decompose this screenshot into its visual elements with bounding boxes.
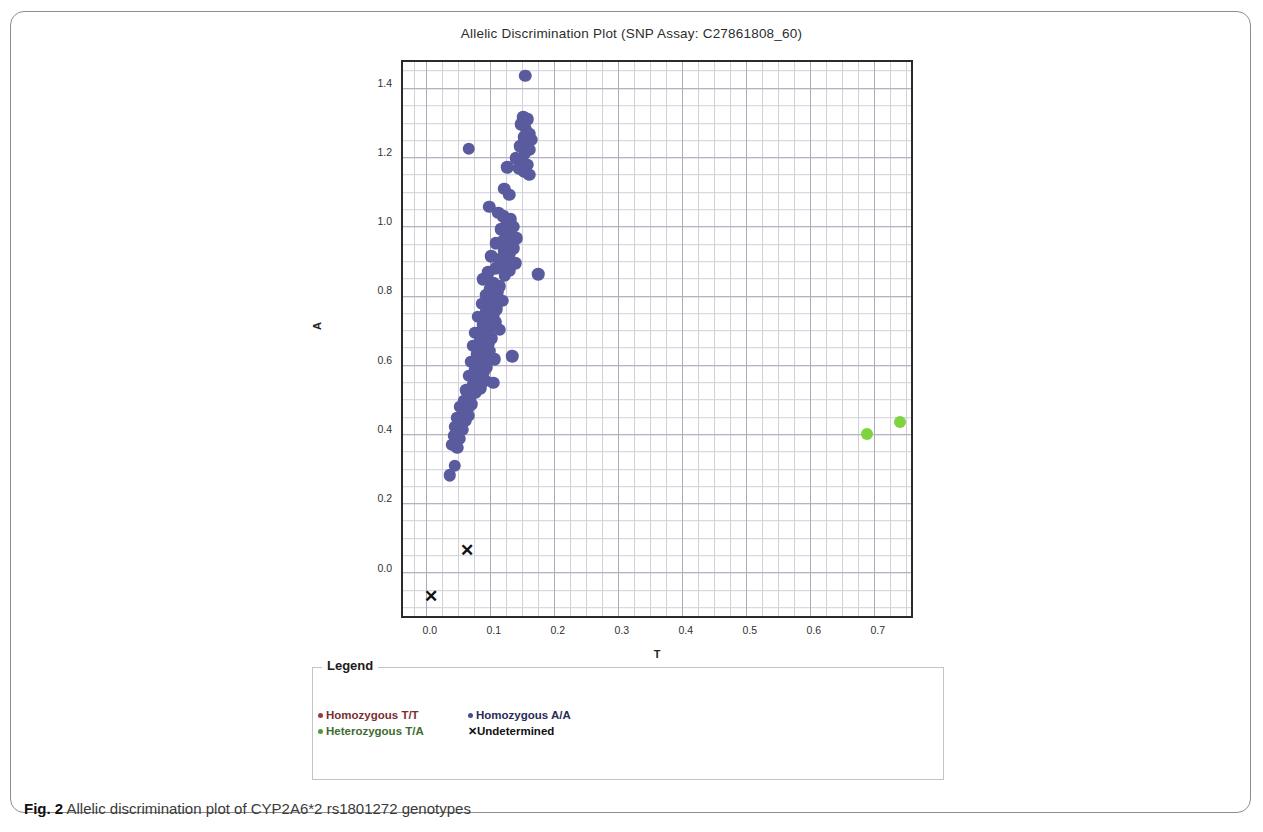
x-tick-label: 0.4 <box>678 624 693 636</box>
x-tick-label: 0.2 <box>550 624 565 636</box>
figure-caption: Fig. 2 Allelic discrimination plot of CY… <box>24 800 471 817</box>
y-tick-label: 1.2 <box>377 146 392 158</box>
y-tick-label: 1.0 <box>377 215 392 227</box>
legend-entry: ✕Undetermined <box>468 725 554 738</box>
data-point <box>532 268 545 281</box>
x-tick-label: 0.1 <box>486 624 501 636</box>
y-tick-label: 0.2 <box>377 492 392 504</box>
data-point <box>519 70 532 83</box>
legend-label: Homozygous A/A <box>476 709 571 721</box>
x-tick-label: 0.3 <box>614 624 629 636</box>
data-point <box>894 416 906 428</box>
undetermined-marker: ✕ <box>460 541 474 558</box>
figure-caption-text: Allelic discrimination plot of CYP2A6*2 … <box>63 800 471 817</box>
data-point <box>506 350 519 363</box>
legend-label: Undetermined <box>477 725 554 737</box>
legend-swatch-icon <box>318 729 323 734</box>
legend-x-icon: ✕ <box>468 725 476 738</box>
legend-label: Heterozygous T/A <box>326 725 424 737</box>
figure-number: Fig. 2 <box>24 800 63 817</box>
x-tick-label: 0.0 <box>422 624 437 636</box>
data-point <box>463 142 476 155</box>
x-tick-label: 0.6 <box>806 624 821 636</box>
y-tick-label: 0.4 <box>377 423 392 435</box>
legend-swatch-icon <box>468 713 473 718</box>
legend-items: Homozygous T/THomozygous A/AHeterozygous… <box>318 707 648 739</box>
legend-entry: Homozygous T/T <box>318 709 468 721</box>
legend-label: Homozygous T/T <box>326 709 419 721</box>
data-point <box>487 376 500 389</box>
chart-title: Allelic Discrimination Plot (SNP Assay: … <box>0 26 1263 41</box>
data-point <box>443 469 456 482</box>
y-tick-label: 1.4 <box>377 77 392 89</box>
x-tick-label: 0.7 <box>870 624 885 636</box>
y-axis-label: A <box>311 322 323 330</box>
legend-row: Heterozygous T/A✕Undetermined <box>318 723 648 739</box>
data-point <box>501 161 514 174</box>
x-axis-label: T <box>401 648 913 660</box>
legend-swatch-icon <box>318 713 323 718</box>
data-point <box>861 428 873 440</box>
undetermined-marker: ✕ <box>424 587 438 604</box>
x-tick-label: 0.5 <box>742 624 757 636</box>
scatter-plot-area: ✕✕ <box>401 60 913 618</box>
y-tick-label: 0.8 <box>377 284 392 296</box>
data-point <box>523 168 536 181</box>
data-point <box>451 441 464 454</box>
legend-row: Homozygous T/THomozygous A/A <box>318 707 648 723</box>
legend-title: Legend <box>322 658 378 673</box>
legend-entry: Homozygous A/A <box>468 709 571 721</box>
y-tick-label: 0.6 <box>377 354 392 366</box>
y-tick-label: 0.0 <box>377 562 392 574</box>
legend-entry: Heterozygous T/A <box>318 725 468 737</box>
data-point <box>503 188 516 201</box>
